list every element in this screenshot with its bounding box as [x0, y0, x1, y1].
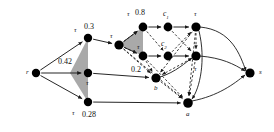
- graph-node-t2[interactable]: [139, 52, 148, 61]
- graph-node-c1[interactable]: [164, 23, 173, 32]
- tau-042: τ: [86, 80, 89, 87]
- graph-node-u1[interactable]: [191, 22, 200, 31]
- val-02: 0.2: [131, 66, 141, 74]
- graph-node-n3[interactable]: [84, 98, 92, 106]
- graph-node-n2[interactable]: [84, 69, 92, 77]
- graph-node-hub[interactable]: [114, 40, 123, 49]
- tau-03: τ: [74, 27, 77, 34]
- curve-u1-s: [200, 27, 246, 71]
- dashed-c2-u1: [172, 32, 191, 52]
- curved-edges: [160, 27, 246, 101]
- graph-node-u2[interactable]: [191, 51, 200, 60]
- graph-node-a[interactable]: [183, 98, 193, 108]
- graph-node-n1[interactable]: [84, 34, 92, 42]
- val-028: 0.28: [82, 111, 96, 119]
- shade-hub-triangle: [119, 27, 143, 56]
- tau-u1: τ: [194, 11, 197, 18]
- curve-u2-s: [200, 56, 245, 71]
- graph-figure: τ0.30.42ττ0.28ττ0.8τ0.2ττc1c2rbas: [0, 0, 274, 132]
- node-label-s: s: [259, 69, 262, 76]
- dashed-c1-u2: [172, 31, 191, 51]
- graph-node-r[interactable]: [32, 69, 40, 77]
- graph-node-t08[interactable]: [139, 23, 148, 32]
- tau-08: τ: [127, 11, 130, 18]
- curve-b-out: [160, 58, 192, 77]
- val-03: 0.3: [84, 23, 94, 31]
- tau-u2: τ: [194, 66, 197, 73]
- val-08: 0.8: [135, 9, 145, 17]
- c2-label: c2: [161, 40, 167, 50]
- tau-028: τ: [72, 110, 75, 117]
- graph-node-c2[interactable]: [164, 52, 173, 61]
- c1-label: c1: [163, 10, 169, 20]
- graph-node-s[interactable]: [245, 68, 254, 77]
- node-label-r: r: [26, 69, 29, 76]
- node-label-b: b: [154, 85, 158, 92]
- tau-mid: τ: [137, 44, 140, 51]
- edge-n3-a: [93, 102, 181, 103]
- graph-node-b[interactable]: [151, 73, 160, 82]
- dashed-u1-b: [160, 32, 192, 73]
- node-label-a: a: [186, 111, 190, 118]
- tau-hub: τ: [110, 33, 113, 40]
- dashed-b-a: [161, 82, 182, 99]
- val-042: 0.42: [58, 58, 72, 66]
- dashed-u2-b: [162, 59, 190, 75]
